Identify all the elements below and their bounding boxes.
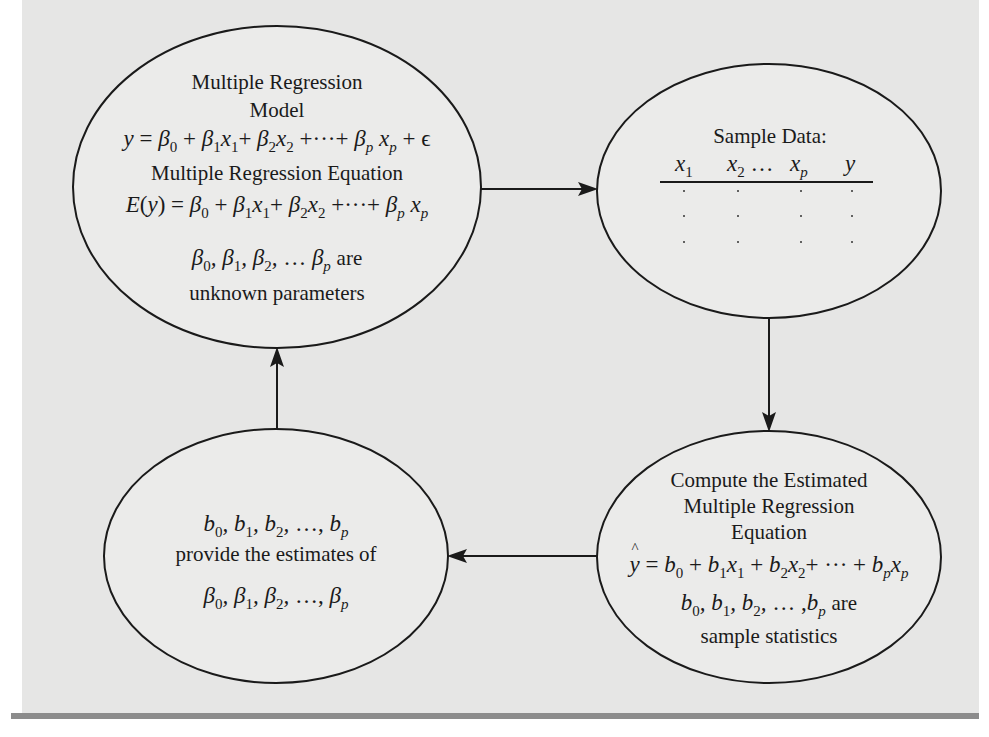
model-equation-title: Multiple Regression Equation <box>117 163 437 184</box>
compute-stats-caption: sample statistics <box>679 626 859 647</box>
arrow-model-to-sample <box>481 182 598 196</box>
arrow-sample-to-compute <box>762 318 776 432</box>
model-equation: y = β0 + β1x1+ β2x2 +···+ βp xp + ϵ <box>97 127 457 150</box>
model-title-line2: Model <box>177 100 377 121</box>
model-params-caption: unknown parameters <box>167 283 387 304</box>
sample-col-x2: x2 … <box>727 152 773 175</box>
compute-stats-line: b0, b1, b2, … ,bp are <box>659 591 879 614</box>
model-title-line1: Multiple Regression <box>177 72 377 93</box>
estimates-beta-line: β0, β1, β2, …, βp <box>176 584 376 607</box>
expected-value-equation: E(y) = β0 + β1x1+ β2x2 +···+ βp xp <box>97 193 457 216</box>
compute-title-line3: Equation <box>659 522 879 543</box>
arrow-estimates-to-model <box>270 347 284 429</box>
arrow-compute-to-estimates <box>447 549 597 563</box>
estimated-regression-equation: y = b0 + b1x1 + b2x2+ ··· + bpxp <box>609 553 929 576</box>
compute-title-line1: Compute the Estimated <box>659 470 879 491</box>
node-sample-ellipse <box>597 64 941 318</box>
sample-col-x1: x1 <box>675 152 693 175</box>
estimates-caption: provide the estimates of <box>156 544 396 565</box>
sample-col-y: y <box>845 152 855 175</box>
model-params-line: β0, β1, β2, … βp are <box>147 246 407 269</box>
compute-title-line2: Multiple Regression <box>659 496 879 517</box>
estimates-b-line: b0, b1, b2, …, bp <box>176 512 376 535</box>
sample-col-xp: xp <box>790 152 808 175</box>
sample-title: Sample Data: <box>690 126 850 147</box>
